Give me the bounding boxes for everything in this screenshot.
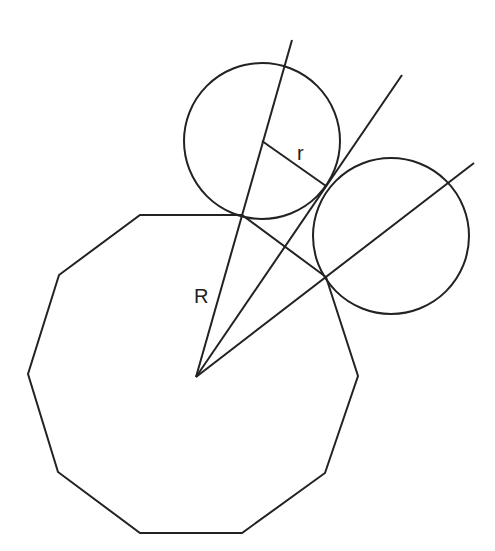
decagon-circles-diagram: R r — [0, 0, 495, 551]
decagon — [28, 215, 358, 533]
radius-r-segment — [262, 141, 326, 186]
ray-R — [196, 40, 292, 377]
circle-right — [313, 158, 469, 314]
ray-right — [196, 163, 474, 377]
label-r: r — [297, 142, 304, 164]
label-R: R — [194, 285, 208, 307]
ray-tangent — [196, 75, 402, 377]
